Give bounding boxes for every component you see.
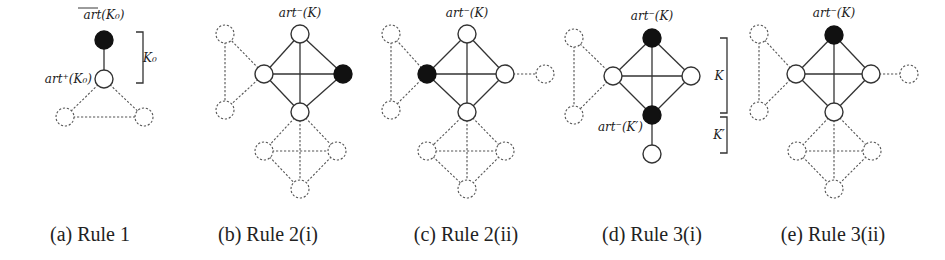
node xyxy=(787,65,805,83)
node-dashed xyxy=(536,65,554,83)
bracket-k0 xyxy=(136,32,143,83)
label-k0: K₀ xyxy=(142,51,157,65)
node-dashed xyxy=(418,142,436,160)
node-dashed xyxy=(565,106,583,124)
edges xyxy=(574,38,691,154)
node-dashed xyxy=(216,25,234,43)
node xyxy=(291,103,309,121)
caption-e: (e) Rule 3(ii) xyxy=(781,223,885,246)
node-dashed xyxy=(788,142,806,160)
node-dashed xyxy=(255,142,273,160)
node-black xyxy=(418,65,436,83)
node-dashed xyxy=(328,142,346,160)
rule-diagram-figure: art(K₀)art⁺(K₀)K₀(a) Rule 1art⁻(K)(b) Ru… xyxy=(0,0,945,260)
node-dashed xyxy=(382,25,400,43)
label-art-minus-k: art⁻(K) xyxy=(446,6,489,20)
node-art-minus-k xyxy=(291,25,309,43)
panel-b: art⁻(K)(b) Rule 2(i) xyxy=(216,6,352,246)
caption-a: (a) Rule 1 xyxy=(50,223,130,246)
panels: art(K₀)art⁺(K₀)K₀(a) Rule 1art⁻(K)(b) Ru… xyxy=(45,6,918,246)
node xyxy=(604,67,622,85)
node-dashed xyxy=(135,108,153,126)
edges xyxy=(225,34,343,189)
label-art-plus-k0: art⁺(K₀) xyxy=(45,72,93,86)
panel-d: art⁻(K)art⁻(K′)KK′(d) Rule 3(i) xyxy=(565,9,727,246)
caption-b: (b) Rule 2(i) xyxy=(218,223,318,246)
panel-c: art⁻(K)(c) Rule 2(ii) xyxy=(382,6,554,246)
label-art-minus-k: art⁻(K) xyxy=(631,9,674,23)
node-dashed xyxy=(216,101,234,119)
label-k: K xyxy=(714,69,725,83)
node-dashed xyxy=(750,25,768,43)
node-art-minus-k xyxy=(458,25,476,43)
panel-a: art(K₀)art⁺(K₀)K₀(a) Rule 1 xyxy=(45,8,157,246)
label-art-bar-k0: art(K₀) xyxy=(84,8,125,22)
node xyxy=(458,103,476,121)
panel-e: art⁻(K)(e) Rule 3(ii) xyxy=(750,6,918,246)
node xyxy=(825,103,843,121)
node-dashed xyxy=(750,102,768,120)
label-art-minus-k: art⁻(K) xyxy=(813,6,856,20)
caption-d: (d) Rule 3(i) xyxy=(602,223,702,246)
node-dashed xyxy=(496,142,514,160)
node xyxy=(682,67,700,85)
caption-c: (c) Rule 2(ii) xyxy=(414,223,518,246)
node-art-minus-k xyxy=(643,29,661,47)
nodes xyxy=(382,25,554,198)
node-pendant xyxy=(643,145,661,163)
node-art-minus-k xyxy=(825,26,843,44)
label-art-minus-k-prime: art⁻(K′) xyxy=(598,120,643,134)
node-black xyxy=(334,65,352,83)
label-k-prime: K′ xyxy=(712,128,725,142)
node xyxy=(862,65,880,83)
node-dashed xyxy=(825,180,843,198)
label-art-minus-k: art⁻(K) xyxy=(279,6,322,20)
node-art-plus-k0 xyxy=(95,70,113,88)
node-dashed xyxy=(565,29,583,47)
node-dashed xyxy=(863,142,881,160)
node-art-minus-k-prime xyxy=(643,106,661,124)
node-dashed xyxy=(382,101,400,119)
node xyxy=(496,65,514,83)
node-dashed xyxy=(900,65,918,83)
node-dashed xyxy=(458,180,476,198)
node xyxy=(255,65,273,83)
node-dashed xyxy=(291,180,309,198)
node-art-bar-k0 xyxy=(95,31,113,49)
node-dashed xyxy=(56,108,74,126)
